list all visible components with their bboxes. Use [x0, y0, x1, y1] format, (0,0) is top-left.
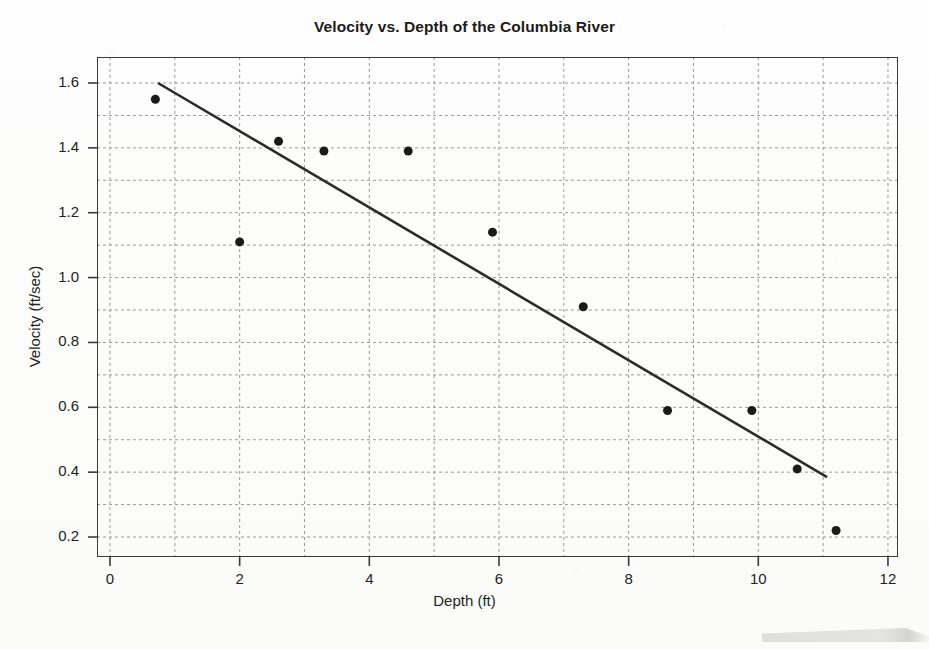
x-tick-label: 2: [220, 570, 260, 587]
y-tick-label: 0.4: [31, 462, 79, 479]
y-axis-title: Velocity (ft/sec): [26, 237, 43, 397]
y-tick-label: 0.2: [31, 527, 79, 544]
scan-artifact: [762, 628, 929, 642]
plot-frame: [97, 57, 898, 557]
x-tick-label: 8: [609, 570, 649, 587]
x-tick-label: 0: [90, 570, 130, 587]
y-tick-label: 1.2: [31, 203, 79, 220]
x-tick-label: 10: [738, 570, 778, 587]
x-tick-label: 6: [479, 570, 519, 587]
y-tick-label: 1.4: [31, 138, 79, 155]
chart-page: Velocity vs. Depth of the Columbia River…: [0, 0, 929, 649]
x-tick-label: 12: [868, 570, 908, 587]
x-axis-title: Depth (ft): [0, 592, 929, 609]
x-tick-label: 4: [349, 570, 389, 587]
page-title: Velocity vs. Depth of the Columbia River: [0, 18, 929, 36]
y-tick-label: 0.6: [31, 397, 79, 414]
y-tick-label: 1.6: [31, 73, 79, 90]
